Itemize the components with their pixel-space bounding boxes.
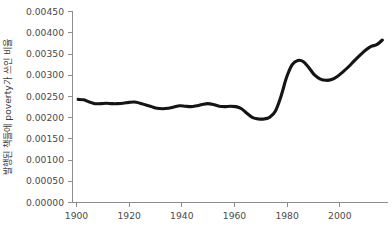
y-tick-label: 0.00350 [26, 48, 64, 59]
x-tick-label: 1920 [118, 210, 142, 221]
y-tick-label: 0.00100 [26, 154, 64, 165]
x-tick-label: 1980 [275, 210, 299, 221]
y-axis-title: 발행된 책들에 poverty가 쓰인 비율 [2, 39, 13, 174]
y-tick-label: 0.00200 [26, 112, 64, 123]
y-tick-label: 0.00250 [26, 91, 64, 102]
x-tick-label: 1960 [223, 210, 247, 221]
y-tick-label: 0.00400 [26, 27, 64, 38]
y-tick-label: 0.00450 [26, 6, 64, 17]
y-tick-label: 0.00050 [26, 175, 64, 186]
y-tick-label: 0.00000 [26, 197, 64, 208]
x-tick-label: 1940 [170, 210, 194, 221]
y-tick-label: 0.00300 [26, 69, 64, 80]
chart-figure: 0.00000 0.00050 0.00100 0.00150 0.00200 … [0, 0, 392, 235]
y-tick-label: 0.00150 [26, 133, 64, 144]
x-tick-label: 1900 [65, 210, 89, 221]
chart-plot-area: 0.00000 0.00050 0.00100 0.00150 0.00200 … [0, 0, 392, 235]
x-tick-label: 2000 [328, 210, 352, 221]
